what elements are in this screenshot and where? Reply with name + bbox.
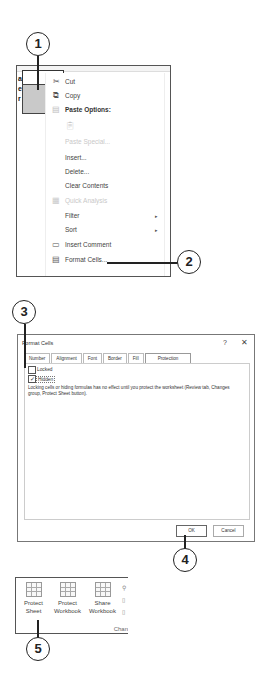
submenu-arrow-icon: ▸ — [155, 223, 158, 237]
tab-border[interactable]: Border — [103, 353, 127, 363]
menu-item-sort[interactable]: Sort ▸ — [46, 223, 164, 237]
format-cells-icon: ▤ — [51, 255, 61, 265]
tab-fill[interactable]: Fill — [128, 353, 144, 363]
menu-item-paste-special[interactable]: Paste Special... — [46, 135, 164, 149]
paste-icon: ▤ — [51, 105, 61, 115]
protection-tab-panel: Locked ✓ Hidden Locking cells or hiding … — [24, 363, 250, 520]
menu-item-insert[interactable]: Insert... — [46, 151, 164, 165]
group-label-changes: Chan — [114, 626, 128, 632]
hidden-label: Hidden — [36, 376, 55, 383]
dialog-tabs: Number Alignment Font Border Fill Protec… — [24, 353, 192, 363]
close-button[interactable]: ✕ — [241, 338, 248, 347]
copy-icon: ⧉ — [51, 91, 61, 101]
scissors-icon: ✂ — [51, 77, 61, 87]
locked-label: Locked — [37, 367, 52, 372]
menu-paste-option[interactable]: 📋︎ — [46, 118, 164, 134]
menu-item-delete[interactable]: Delete... — [46, 165, 164, 179]
callout-5-leader — [37, 620, 39, 638]
button-label: Sheet — [16, 608, 51, 616]
ok-button[interactable]: OK — [176, 525, 207, 537]
share-workbook-button[interactable]: Share Workbook — [85, 582, 120, 615]
callout-4-leader — [184, 535, 186, 549]
small-ribbon-icons: ⚲ ▯ ▯ — [122, 582, 128, 618]
locked-checkbox[interactable] — [28, 366, 36, 374]
format-cells-dialog: Format Cells ? ✕ Number Alignment Font B… — [17, 334, 255, 542]
protect-workbook-button[interactable]: Protect Workbook — [50, 582, 85, 615]
menu-item-quick-analysis[interactable]: ▦ Quick Analysis — [46, 194, 164, 208]
callout-2: 2 — [177, 250, 201, 274]
share-workbook-icon — [95, 582, 111, 597]
menu-item-format-cells[interactable]: ▤ Format Cells... — [46, 253, 164, 267]
comment-icon: ▭ — [51, 240, 61, 250]
callout-1-leader — [37, 56, 39, 90]
protect-workbook-icon — [60, 582, 76, 597]
callout-1: 1 — [26, 32, 50, 56]
dialog-title: Format Cells — [22, 340, 53, 346]
cancel-button[interactable]: Cancel — [213, 525, 244, 537]
menu-item-cut[interactable]: ✂ Cut — [46, 75, 164, 89]
hidden-checkbox[interactable]: ✓ — [28, 375, 36, 383]
callout-3-leader — [24, 324, 26, 368]
tab-number[interactable]: Number — [24, 353, 50, 363]
menu-item-insert-comment[interactable]: ▭ Insert Comment — [46, 238, 164, 252]
allow-edit-ranges-icon[interactable]: ▯ — [122, 594, 128, 606]
callout-4: 4 — [173, 548, 197, 572]
context-menu-screenshot: a e r ✂ Cut ⧉ Copy ▤ Paste Options: 📋︎ P… — [16, 65, 171, 277]
protect-share-icon[interactable]: ▯ — [122, 606, 128, 618]
quick-analysis-icon: ▦ — [51, 196, 61, 206]
track-changes-icon[interactable]: ⚲ — [122, 582, 128, 594]
protection-note: Locking cells or hiding formulas has no … — [28, 385, 243, 397]
menu-item-copy[interactable]: ⧉ Copy — [46, 89, 164, 103]
context-menu: ✂ Cut ⧉ Copy ▤ Paste Options: 📋︎ Paste S… — [45, 73, 165, 277]
menu-paste-options-header: ▤ Paste Options: — [46, 103, 164, 117]
protect-sheet-icon — [26, 582, 42, 597]
callout-5: 5 — [26, 637, 50, 661]
button-label: Workbook — [85, 608, 120, 616]
button-label: Protect — [16, 600, 51, 608]
protect-sheet-button[interactable]: Protect Sheet — [16, 582, 51, 615]
menu-item-filter[interactable]: Filter ▸ — [46, 209, 164, 223]
callout-2-leader — [107, 262, 178, 264]
callout-3: 3 — [12, 300, 36, 324]
button-label: Workbook — [50, 608, 85, 616]
review-ribbon-changes-group: Protect Sheet Protect Workbook Share Wor… — [15, 577, 128, 634]
button-label: Protect — [50, 600, 85, 608]
paste-clipboard-icon: 📋︎ — [65, 121, 75, 131]
tab-font[interactable]: Font — [83, 353, 102, 363]
tab-alignment[interactable]: Alignment — [51, 353, 81, 363]
submenu-arrow-icon: ▸ — [155, 209, 158, 223]
button-label: Share — [85, 600, 120, 608]
menu-item-clear-contents[interactable]: Clear Contents — [46, 179, 164, 193]
help-button[interactable]: ? — [223, 339, 227, 346]
